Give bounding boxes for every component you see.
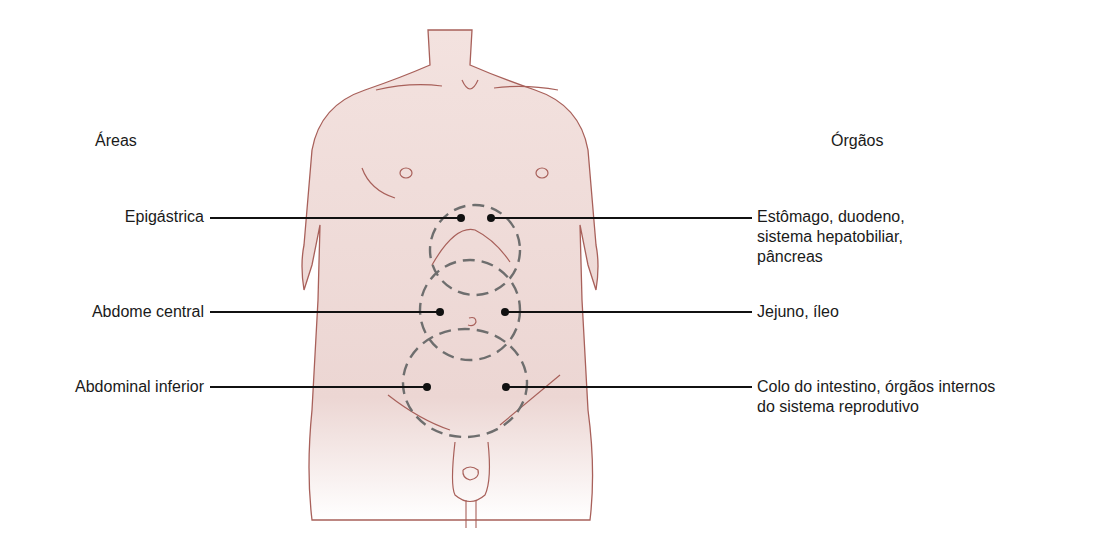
header-areas: Áreas xyxy=(95,131,137,151)
area-label-central: Abdome central xyxy=(92,302,204,322)
organs-central: Jejuno, íleo xyxy=(757,302,839,322)
area-label-epigastric: Epigástrica xyxy=(125,207,204,227)
torso-illustration xyxy=(0,0,1102,549)
header-organs: Órgãos xyxy=(831,131,883,151)
area-label-lower: Abdominal inferior xyxy=(75,377,204,397)
torso-outline xyxy=(302,30,598,520)
organs-lower: Colo do intestino, órgãos internos do si… xyxy=(757,377,995,417)
organs-epigastric: Estômago, duodeno, sistema hepatobiliar,… xyxy=(757,207,905,267)
